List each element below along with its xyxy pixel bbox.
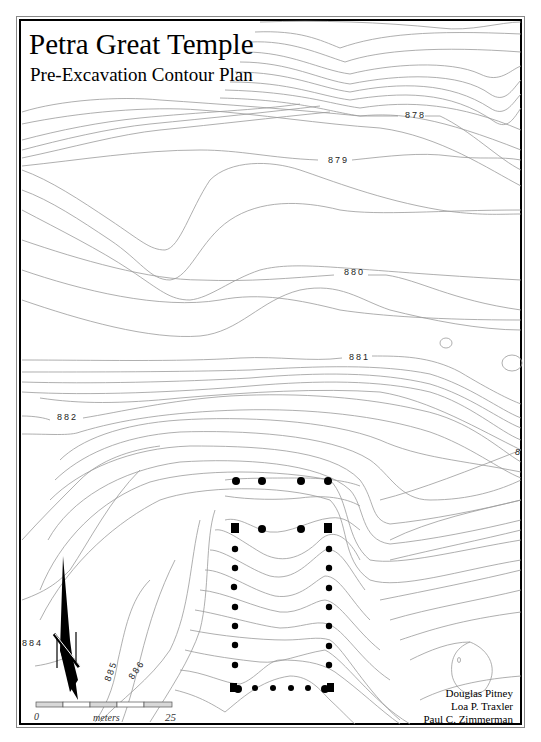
map-subtitle: Pre-Excavation Contour Plan	[30, 65, 253, 84]
map-title: Petra Great Temple	[29, 30, 254, 59]
scale-end-label: 25	[165, 711, 176, 723]
svg-text:881: 881	[349, 352, 370, 362]
svg-text:8: 8	[515, 447, 522, 457]
scale-unit-label: meters	[93, 712, 120, 723]
scale-bar	[36, 702, 172, 707]
svg-text:880: 880	[344, 267, 365, 277]
svg-text:885: 885	[102, 660, 119, 683]
svg-text:878: 878	[405, 110, 426, 120]
svg-text:882: 882	[57, 412, 78, 422]
scale-start-label: 0	[34, 711, 39, 722]
contour-lines	[22, 21, 522, 724]
credits: Douglas Pitney Loa P. Traxler Paul C. Zi…	[423, 687, 513, 726]
svg-text:886: 886	[126, 658, 146, 681]
svg-text:884: 884	[22, 638, 43, 648]
credit-name: Paul C. Zimmerman	[423, 713, 513, 726]
svg-text:879: 879	[328, 155, 349, 165]
credit-name: Loa P. Traxler	[423, 700, 513, 713]
credit-name: Douglas Pitney	[423, 687, 513, 700]
contour-map: 878 879 880 881 882 884 885 886 8	[0, 0, 541, 742]
contour-labels: 878 879 880 881 882 884 885 886 8	[22, 110, 522, 683]
